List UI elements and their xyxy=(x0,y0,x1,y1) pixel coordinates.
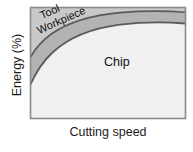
y-axis-label: Energy (%) xyxy=(10,10,24,120)
x-axis-label: Cutting speed xyxy=(30,125,186,139)
region-label-chip: Chip xyxy=(104,55,130,69)
energy-partition-chart: Energy (%) Cutting speed Tool Workpiece … xyxy=(0,0,193,152)
